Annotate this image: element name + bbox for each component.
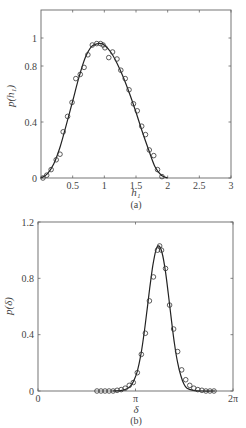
x-tick-label: 3 [229, 180, 234, 191]
data-point [151, 153, 156, 158]
chart-panel-b: 0π2π 00.40.81.2 δ p(δ) (b) [2, 217, 238, 428]
x-tick-label: 0.5 [66, 180, 79, 191]
data-point [143, 132, 148, 137]
theory-line [41, 43, 168, 178]
theory-curve-a [41, 43, 168, 178]
data-point [179, 368, 184, 373]
data-point [106, 55, 111, 60]
data-markers-a [41, 41, 165, 180]
caption-b: (b) [130, 415, 142, 427]
y-tick-label: 0.8 [25, 61, 38, 72]
y-tick-label: 0.4 [22, 329, 35, 340]
y-axis-label-a: p(h₁) [4, 85, 17, 108]
y-ticks-b: 00.40.81.2 [22, 217, 234, 397]
y-tick-label: 1.2 [22, 217, 35, 228]
chart-panel-a: 0.511.522.53 00.40.81 h₁ p(h₁) (a) [4, 10, 234, 211]
x-axis-label-b: δ [133, 403, 139, 415]
x-tick-label: 2 [165, 180, 170, 191]
x-axis-label-a: h₁ [131, 186, 141, 198]
x-tick-label: 2.5 [193, 180, 206, 191]
data-point [74, 76, 79, 81]
data-markers-b [95, 244, 217, 394]
plot-frame-a [41, 10, 231, 178]
data-point [183, 377, 188, 382]
y-tick-label: 0.8 [22, 273, 35, 284]
x-ticks-b: 0π2π [36, 222, 239, 404]
y-tick-label: 0 [29, 386, 34, 397]
x-tick-label: 2π [228, 393, 238, 404]
y-tick-label: 0 [32, 173, 37, 184]
y-tick-label: 1 [32, 33, 37, 44]
y-axis-label-b: p(δ) [2, 297, 15, 316]
x-ticks-a: 0.511.522.53 [66, 10, 233, 191]
caption-a: (a) [130, 199, 141, 211]
data-point [187, 383, 192, 388]
plot-frame-b [38, 222, 233, 391]
x-tick-label: 1 [102, 180, 107, 191]
data-point [58, 152, 63, 157]
x-tick-label: 0 [36, 393, 41, 404]
data-point [151, 275, 156, 280]
figure: 0.511.522.53 00.40.81 h₁ p(h₁) (a) 0π2π … [0, 0, 246, 428]
y-tick-label: 0.4 [25, 117, 38, 128]
